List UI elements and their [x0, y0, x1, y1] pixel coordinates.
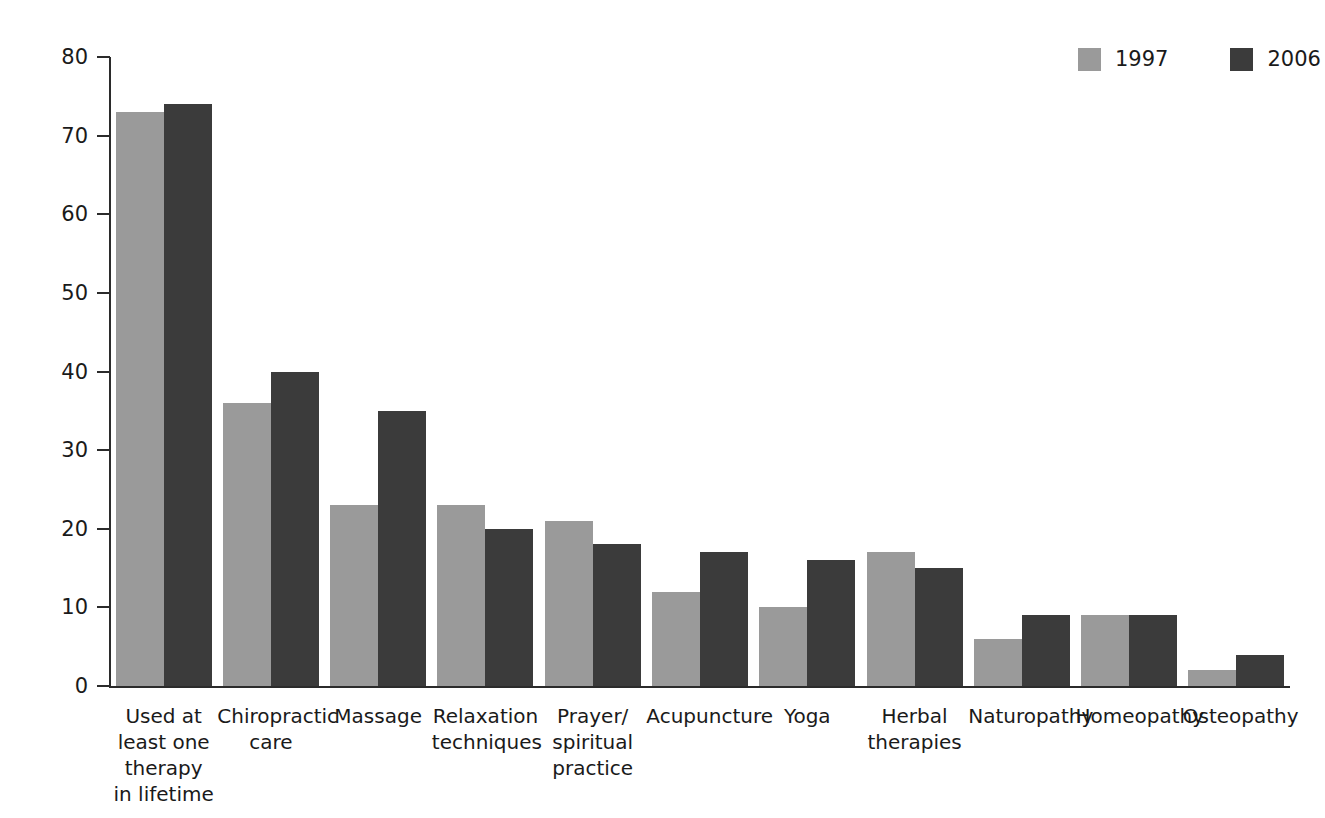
bar-pair — [223, 57, 319, 686]
bar-pair — [1188, 57, 1284, 686]
bar-pair — [974, 57, 1070, 686]
y-axis-tick — [97, 213, 110, 215]
y-axis-tick-label: 10 — [61, 595, 88, 619]
bar-group — [1081, 57, 1177, 686]
bar-group — [1188, 57, 1284, 686]
x-axis-category-label: Yoga — [754, 703, 861, 729]
bar-1997[interactable] — [974, 639, 1022, 686]
x-axis-category-label: Acupuncture — [646, 703, 753, 729]
bar-1997[interactable] — [652, 592, 700, 686]
y-axis-tick-label: 60 — [61, 202, 88, 226]
y-axis-tick — [97, 449, 110, 451]
x-axis-category-label: Massage — [325, 703, 432, 729]
bar-group — [652, 57, 748, 686]
bar-chart: 1997 2006 Per cent 01020304050607080 Use… — [0, 0, 1325, 818]
bar-1997[interactable] — [223, 403, 271, 686]
bar-1997[interactable] — [759, 607, 807, 686]
x-axis-category-label: Naturopathy — [968, 703, 1075, 729]
bar-2006[interactable] — [915, 568, 963, 686]
y-axis-tick-label: 80 — [61, 45, 88, 69]
bar-2006[interactable] — [593, 544, 641, 686]
x-axis-category-label: Osteopathy — [1183, 703, 1290, 729]
bar-2006[interactable] — [807, 560, 855, 686]
bar-1997[interactable] — [330, 505, 378, 686]
bar-group — [545, 57, 641, 686]
bar-1997[interactable] — [1081, 615, 1129, 686]
x-axis-category-label: Relaxationtechniques — [432, 703, 539, 755]
x-axis-category-label: Chiropracticcare — [217, 703, 324, 755]
y-axis-tick — [97, 135, 110, 137]
y-axis-tick — [97, 371, 110, 373]
plot-area: Per cent 01020304050607080 Used atleast … — [110, 57, 1290, 686]
bar-1997[interactable] — [437, 505, 485, 686]
bar-2006[interactable] — [700, 552, 748, 686]
x-axis-category-label: Homeopathy — [1075, 703, 1182, 729]
y-axis-tick-label: 0 — [75, 674, 88, 698]
bar-1997[interactable] — [867, 552, 915, 686]
y-axis-tick-label: 30 — [61, 438, 88, 462]
bar-pair — [1081, 57, 1177, 686]
y-axis-tick-label: 50 — [61, 281, 88, 305]
bar-pair — [867, 57, 963, 686]
bar-1997[interactable] — [1188, 670, 1236, 686]
x-axis-line — [109, 686, 1290, 688]
bar-group — [116, 57, 212, 686]
x-axis-category-label: Used atleast onetherapyin lifetime — [110, 703, 217, 807]
bar-2006[interactable] — [1022, 615, 1070, 686]
bar-group — [759, 57, 855, 686]
x-axis-category-label: Prayer/spiritualpractice — [539, 703, 646, 781]
y-axis-tick — [97, 56, 110, 58]
y-axis-tick-label: 20 — [61, 517, 88, 541]
bar-pair — [545, 57, 641, 686]
x-axis-category-label: Herbaltherapies — [861, 703, 968, 755]
bar-2006[interactable] — [378, 411, 426, 686]
bar-2006[interactable] — [485, 529, 533, 686]
y-axis-tick — [97, 528, 110, 530]
bar-group — [974, 57, 1070, 686]
bar-pair — [652, 57, 748, 686]
bar-2006[interactable] — [1236, 655, 1284, 686]
bar-group — [223, 57, 319, 686]
y-axis-tick-label: 40 — [61, 360, 88, 384]
bar-pair — [437, 57, 533, 686]
y-axis-tick — [97, 606, 110, 608]
y-axis-tick-label: 70 — [61, 124, 88, 148]
bar-1997[interactable] — [116, 112, 164, 686]
y-axis-tick — [97, 292, 110, 294]
bar-1997[interactable] — [545, 521, 593, 686]
bar-2006[interactable] — [164, 104, 212, 686]
bar-pair — [759, 57, 855, 686]
bar-pair — [330, 57, 426, 686]
bar-2006[interactable] — [1129, 615, 1177, 686]
bar-group — [330, 57, 426, 686]
bar-2006[interactable] — [271, 372, 319, 687]
bar-group — [437, 57, 533, 686]
y-axis-tick — [97, 685, 110, 687]
bar-pair — [116, 57, 212, 686]
bar-group — [867, 57, 963, 686]
